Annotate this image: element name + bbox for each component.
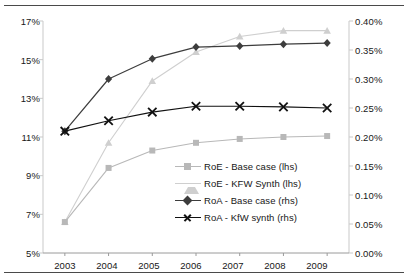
right-axis-tick-015: 0.15%: [355, 161, 399, 172]
left-axis-tick-7: 7%: [6, 209, 40, 220]
series-line-2: [65, 43, 327, 131]
data-point-marker: [236, 42, 243, 50]
data-point-marker: [149, 148, 155, 154]
data-point-marker: [193, 140, 199, 146]
legend-label-roe-base-case: RoE - Base case (lhs): [201, 161, 297, 172]
legend-marker-diamond-icon: [175, 194, 201, 207]
legend-label-roe-kfw-synth: RoE - KFW Synth (lhs): [201, 178, 301, 189]
right-axis-tick-035: 0.35%: [355, 45, 399, 56]
data-point-marker: [324, 133, 330, 139]
left-axis-tick-11: 11%: [6, 132, 40, 143]
data-point-marker: [148, 77, 156, 84]
data-point-marker: [105, 139, 113, 146]
legend-marker-x-icon: [175, 211, 201, 224]
left-axis-tick-9: 9%: [6, 170, 40, 181]
left-axis-tick-15: 15%: [6, 55, 40, 66]
right-axis-tick-030: 0.30%: [355, 74, 399, 85]
left-axis-tick-5: 5%: [6, 248, 40, 259]
data-point-marker: [324, 39, 331, 47]
x-axis-tick-2005: 2005: [129, 260, 169, 271]
x-axis-tick-2008: 2008: [255, 260, 295, 271]
legend-label-roa-kfw-synth: RoA - KfW synth (rhs): [201, 212, 297, 223]
x-axis-tick-2004: 2004: [87, 260, 127, 271]
data-point-marker: [192, 43, 199, 51]
legend-item-roa-kfw-synth[interactable]: RoA - KfW synth (rhs): [175, 209, 325, 226]
right-axis-tick-005: 0.05%: [355, 219, 399, 230]
legend-marker-triangle-icon: [175, 177, 201, 190]
data-point-marker: [280, 134, 286, 140]
data-point-marker: [280, 40, 287, 48]
right-axis-tick-010: 0.10%: [355, 190, 399, 201]
right-axis-tick-000: 0.00%: [355, 248, 399, 259]
data-point-marker: [237, 136, 243, 142]
legend-marker-square-icon: [175, 160, 201, 173]
chart-figure: 17% 15% 13% 11% 9% 7% 5% 0.40% 0.35% 0.3…: [0, 0, 408, 280]
chart-legend: RoE - Base case (lhs) RoE - KFW Synth (l…: [175, 158, 325, 226]
data-point-marker: [106, 165, 112, 171]
legend-item-roe-kfw-synth[interactable]: RoE - KFW Synth (lhs): [175, 175, 325, 192]
legend-item-roa-base-case[interactable]: RoA - Base case (rhs): [175, 192, 325, 209]
legend-label-roa-base-case: RoA - Base case (rhs): [201, 195, 298, 206]
right-axis-tick-040: 0.40%: [355, 16, 399, 27]
x-axis-tick-2007: 2007: [213, 260, 253, 271]
data-point-marker: [149, 55, 156, 63]
x-axis-tick-2003: 2003: [45, 260, 85, 271]
right-axis-tick-025: 0.25%: [355, 103, 399, 114]
right-axis-tick-020: 0.20%: [355, 132, 399, 143]
x-axis-tick-2009: 2009: [297, 260, 337, 271]
data-point-marker: [62, 219, 68, 225]
left-axis-tick-13: 13%: [6, 93, 40, 104]
left-axis-tick-17: 17%: [6, 16, 40, 27]
legend-item-roe-base-case[interactable]: RoE - Base case (lhs): [175, 158, 325, 175]
line-chart-plot: [0, 0, 408, 280]
x-axis-tick-2006: 2006: [171, 260, 211, 271]
